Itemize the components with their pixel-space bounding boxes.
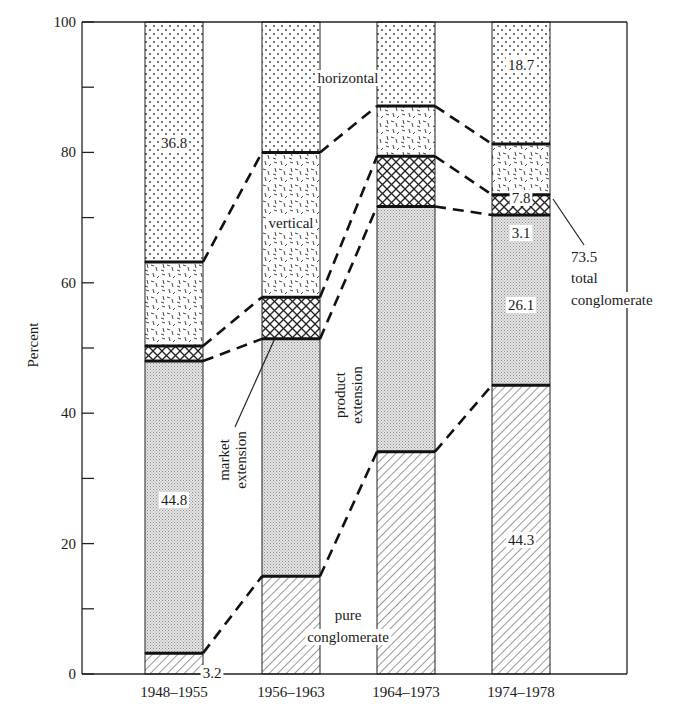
connector-dashed-line (435, 156, 492, 194)
svg-text:product: product (332, 371, 348, 418)
annotation-total-value: 73.5 (569, 249, 599, 265)
segment-market-extension (377, 156, 435, 206)
connector-dashed-line (203, 297, 262, 346)
segment-pure-conglomerate (492, 385, 550, 674)
connector-dashed-line (203, 152, 262, 262)
bar-1964–1973 (377, 22, 435, 674)
connector-dashed-line (435, 385, 492, 452)
x-category-label: 1948–1955 (140, 684, 208, 700)
connector-dashed-line (203, 576, 262, 653)
data-label-36.8: 36.8 (159, 135, 189, 151)
data-label-44.3: 44.3 (506, 532, 536, 548)
svg-text:vertical: vertical (269, 215, 314, 231)
total-conglomerate-leader-line (553, 199, 584, 245)
data-label-26.1: 26.1 (506, 297, 536, 313)
annotation-pure-conglomerate: conglomerate (305, 629, 391, 645)
y-tick-label: 20 (61, 536, 76, 552)
svg-text:36.8: 36.8 (161, 135, 187, 151)
x-category-label: 1956–1963 (257, 684, 325, 700)
connector-dashed-line (320, 106, 377, 152)
connector-dashed-line (435, 106, 492, 144)
annotation-horizontal: horizontal (316, 70, 381, 86)
annotation-total-conglomerate: conglomerate (569, 292, 655, 308)
bars-group (145, 22, 550, 674)
svg-text:pure: pure (335, 607, 362, 623)
svg-text:extension: extension (233, 431, 249, 489)
svg-text:26.1: 26.1 (508, 297, 534, 313)
y-tick-label: 60 (61, 275, 76, 291)
segment-vertical (145, 262, 203, 346)
svg-text:market: market (216, 438, 232, 480)
segment-pure-conglomerate (262, 576, 320, 674)
x-category-label: 1964–1973 (372, 684, 440, 700)
y-tick-label: 40 (61, 405, 76, 421)
svg-text:conglomerate: conglomerate (307, 629, 389, 645)
segment-market-extension (145, 346, 203, 361)
segment-product-extension (377, 207, 435, 452)
annotation-pure-conglomerate: pure (333, 607, 364, 623)
segment-pure-conglomerate (145, 653, 203, 674)
connector-dashed-line (435, 207, 492, 215)
svg-text:3.2: 3.2 (203, 665, 222, 681)
segment-market-extension (262, 297, 320, 339)
data-label-44.8: 44.8 (159, 492, 189, 508)
svg-text:extension: extension (349, 366, 365, 424)
data-label-3.1: 3.1 (510, 225, 533, 241)
annotation-market-extension: extension (233, 431, 249, 489)
annotation-product-extension: product (332, 371, 348, 418)
svg-text:73.5: 73.5 (571, 249, 597, 265)
x-category-label: 1974–1978 (487, 684, 555, 700)
connector-dashed-line (320, 452, 377, 577)
svg-text:horizontal: horizontal (318, 70, 379, 86)
y-axis-label: Percent (25, 322, 41, 368)
annotation-product-extension: extension (349, 366, 365, 424)
y-tick-label: 100 (54, 14, 77, 30)
segment-vertical (492, 144, 550, 195)
connector-dashed-line (320, 156, 377, 297)
annotation-total-conglomerate: total (569, 270, 600, 286)
segment-horizontal (492, 22, 550, 144)
segment-horizontal (262, 22, 320, 152)
svg-text:conglomerate: conglomerate (571, 292, 653, 308)
stacked-bar-chart: 020406080100Percent1948–19551956–1963196… (0, 0, 699, 719)
svg-text:total: total (571, 270, 598, 286)
data-label-18.7: 18.7 (506, 57, 537, 73)
bar-1948–1955 (145, 22, 203, 674)
annotation-vertical: vertical (267, 215, 316, 231)
segment-horizontal (377, 22, 435, 106)
svg-text:44.8: 44.8 (161, 492, 187, 508)
svg-text:44.3: 44.3 (508, 532, 534, 548)
data-label-3.2: 3.2 (201, 665, 224, 681)
segment-product-extension (262, 339, 320, 576)
y-tick-label: 0 (69, 666, 77, 682)
svg-text:7.8: 7.8 (512, 190, 531, 206)
segment-vertical (377, 106, 435, 156)
annotation-market-extension: market (216, 438, 232, 480)
svg-text:3.1: 3.1 (512, 225, 531, 241)
svg-text:18.7: 18.7 (508, 57, 535, 73)
y-tick-label: 80 (61, 144, 76, 160)
connector-dashed-line (203, 339, 262, 361)
bar-1974–1978 (492, 22, 550, 674)
data-label-7.8: 7.8 (510, 190, 533, 206)
